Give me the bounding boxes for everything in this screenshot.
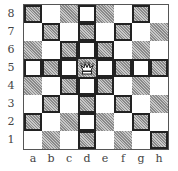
square-h6[interactable]: [150, 41, 168, 59]
rank-label-3: 3: [6, 95, 16, 113]
rank-label-5: 5: [6, 59, 16, 77]
square-c3[interactable]: [60, 95, 78, 113]
square-d7[interactable]: [78, 23, 96, 41]
square-d1[interactable]: [78, 131, 96, 149]
square-d2[interactable]: [78, 113, 96, 131]
square-g4[interactable]: [132, 77, 150, 95]
white-queen-icon[interactable]: [78, 59, 96, 77]
square-b1[interactable]: [42, 131, 60, 149]
file-label-f: f: [114, 152, 132, 165]
square-b3[interactable]: [42, 95, 60, 113]
square-f8[interactable]: [114, 5, 132, 23]
square-f4[interactable]: [114, 77, 132, 95]
square-b5[interactable]: [42, 59, 60, 77]
square-e6[interactable]: [96, 41, 114, 59]
rank-label-8: 8: [6, 5, 16, 23]
square-f6[interactable]: [114, 41, 132, 59]
square-f5[interactable]: [114, 59, 132, 77]
file-label-a: a: [24, 152, 42, 165]
square-c7[interactable]: [60, 23, 78, 41]
square-h4[interactable]: [150, 77, 168, 95]
square-f7[interactable]: [114, 23, 132, 41]
rank-label-2: 2: [6, 113, 16, 131]
file-label-d: d: [78, 152, 96, 165]
square-b2[interactable]: [42, 113, 60, 131]
square-a7[interactable]: [24, 23, 42, 41]
square-b7[interactable]: [42, 23, 60, 41]
square-e4[interactable]: [96, 77, 114, 95]
file-label-c: c: [60, 152, 78, 165]
square-a3[interactable]: [24, 95, 42, 113]
square-h2[interactable]: [150, 113, 168, 131]
square-a6[interactable]: [24, 41, 42, 59]
square-b6[interactable]: [42, 41, 60, 59]
square-h8[interactable]: [150, 5, 168, 23]
square-h7[interactable]: [150, 23, 168, 41]
rank-label-4: 4: [6, 77, 16, 95]
square-h3[interactable]: [150, 95, 168, 113]
square-c6[interactable]: [60, 41, 78, 59]
square-c4[interactable]: [60, 77, 78, 95]
square-e3[interactable]: [96, 95, 114, 113]
rank-label-6: 6: [6, 41, 16, 59]
file-label-b: b: [42, 152, 60, 165]
square-g3[interactable]: [132, 95, 150, 113]
square-e1[interactable]: [96, 131, 114, 149]
square-f1[interactable]: [114, 131, 132, 149]
square-g2[interactable]: [132, 113, 150, 131]
file-label-h: h: [150, 152, 168, 165]
square-a8[interactable]: [24, 5, 42, 23]
file-label-g: g: [132, 152, 150, 165]
square-f2[interactable]: [114, 113, 132, 131]
square-g6[interactable]: [132, 41, 150, 59]
chess-board: [23, 4, 169, 150]
square-f3[interactable]: [114, 95, 132, 113]
square-d6[interactable]: [78, 41, 96, 59]
square-b8[interactable]: [42, 5, 60, 23]
square-b4[interactable]: [42, 77, 60, 95]
square-a5[interactable]: [24, 59, 42, 77]
square-g8[interactable]: [132, 5, 150, 23]
square-d4[interactable]: [78, 77, 96, 95]
square-g5[interactable]: [132, 59, 150, 77]
rank-label-1: 1: [6, 131, 16, 149]
square-c2[interactable]: [60, 113, 78, 131]
square-e2[interactable]: [96, 113, 114, 131]
square-a1[interactable]: [24, 131, 42, 149]
square-g7[interactable]: [132, 23, 150, 41]
rank-label-7: 7: [6, 23, 16, 41]
square-e7[interactable]: [96, 23, 114, 41]
square-a4[interactable]: [24, 77, 42, 95]
square-e5[interactable]: [96, 59, 114, 77]
square-e8[interactable]: [96, 5, 114, 23]
square-d5[interactable]: [78, 59, 96, 77]
square-c5[interactable]: [60, 59, 78, 77]
square-g1[interactable]: [132, 131, 150, 149]
square-c8[interactable]: [60, 5, 78, 23]
square-d3[interactable]: [78, 95, 96, 113]
square-d8[interactable]: [78, 5, 96, 23]
square-a2[interactable]: [24, 113, 42, 131]
square-h5[interactable]: [150, 59, 168, 77]
square-h1[interactable]: [150, 131, 168, 149]
file-label-e: e: [96, 152, 114, 165]
square-c1[interactable]: [60, 131, 78, 149]
